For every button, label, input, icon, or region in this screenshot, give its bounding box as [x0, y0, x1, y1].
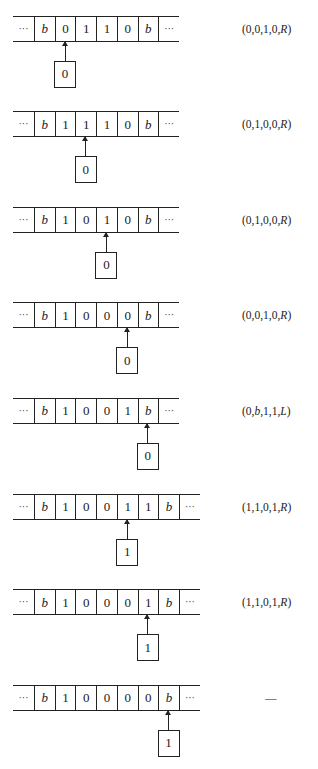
transition-label: (0, 0, 1, 0, R) — [242, 302, 291, 328]
configuration-7: ···b10001b···1(1, 1, 0, 1, R) — [0, 589, 318, 685]
tape-symbol: 0 — [83, 309, 90, 322]
tape-cell: b — [158, 686, 179, 710]
tape-symbol: b — [145, 309, 152, 322]
tape-cell: 1 — [96, 208, 117, 232]
configuration-4: ···b1000b···0(0, 0, 1, 0, R) — [0, 302, 318, 398]
tape-symbol: 0 — [124, 213, 131, 226]
tape-symbol: b — [145, 118, 152, 131]
tape-cell: 0 — [117, 303, 138, 327]
tape-cell: 1 — [55, 495, 76, 519]
tape-symbol: 0 — [104, 691, 111, 704]
tape-symbol: 1 — [62, 596, 69, 609]
transition-label: (0, 0, 1, 0, R) — [242, 16, 291, 42]
tape-cell: 1 — [55, 686, 76, 710]
tape-symbol: 1 — [145, 500, 152, 513]
tape-ellipsis-left: ··· — [13, 112, 34, 136]
transition-component: 0 — [246, 23, 252, 35]
tape-ellipsis-left: ··· — [13, 17, 34, 41]
tape-ellipsis-left: ··· — [13, 303, 34, 327]
tape-symbol: 0 — [124, 691, 131, 704]
transition-component: 0 — [263, 501, 269, 513]
transition-component: 0 — [272, 23, 278, 35]
tape-symbol: 0 — [124, 309, 131, 322]
tape-ellipsis-right: ··· — [158, 112, 179, 136]
tape-symbol: 0 — [83, 691, 90, 704]
tape-cell: 0 — [96, 686, 117, 710]
tape-cell: 1 — [138, 590, 159, 614]
tape-symbol: 1 — [62, 404, 69, 417]
state-box: 0 — [54, 61, 76, 88]
tape-symbol: 1 — [145, 596, 152, 609]
tape-cell: b — [34, 112, 55, 136]
tape-symbol: 0 — [124, 118, 131, 131]
tape-cell: 0 — [75, 590, 96, 614]
tape-symbol: 0 — [83, 404, 90, 417]
head-arrow-icon — [147, 424, 148, 443]
tape-symbol: 0 — [124, 596, 131, 609]
tape-symbol: b — [166, 691, 173, 704]
transition-component: R — [280, 23, 287, 35]
tape-ellipsis-right: ··· — [158, 303, 179, 327]
tape-symbol: 1 — [62, 309, 69, 322]
tape-symbol: b — [145, 213, 152, 226]
tape-symbol: 0 — [83, 213, 90, 226]
transition-label: (0, 1, 0, 0, R) — [242, 111, 291, 137]
state-box: 1 — [116, 539, 138, 566]
transition-component: 0 — [272, 309, 278, 321]
tape-cell: 0 — [75, 686, 96, 710]
tape-cell: b — [138, 112, 159, 136]
tape-cell: 0 — [75, 495, 96, 519]
tape-cell: 0 — [117, 17, 138, 41]
tape-cell: b — [34, 17, 55, 41]
tape-symbol: 1 — [124, 500, 131, 513]
transition-component: b — [254, 405, 260, 417]
tape-symbol: 0 — [62, 22, 69, 35]
tape-symbol: 1 — [62, 213, 69, 226]
configuration-3: ···b1010b···0(0, 1, 0, 0, R) — [0, 207, 318, 303]
transition-component: 1 — [254, 214, 260, 226]
tape-cell: b — [138, 17, 159, 41]
transition-component: 0 — [246, 214, 252, 226]
state-box: 0 — [95, 252, 117, 279]
tape-symbol: 1 — [83, 22, 90, 35]
transition-component: R — [280, 214, 287, 226]
tape-symbol: 1 — [124, 404, 131, 417]
tape-cell: 1 — [55, 112, 76, 136]
head-arrow-icon — [106, 233, 107, 252]
transition-component: 0 — [272, 118, 278, 130]
tape-ellipsis-right: ··· — [158, 399, 179, 423]
tape-cell: 0 — [96, 303, 117, 327]
tape-cell: b — [34, 590, 55, 614]
tape-ellipsis-right: ··· — [158, 208, 179, 232]
turing-machine-trace: ···b0110b···0(0, 0, 1, 0, R)···b1110b···… — [0, 0, 318, 769]
tape-cell: 1 — [55, 208, 76, 232]
transition-component: R — [280, 309, 287, 321]
tape-symbol: b — [42, 309, 49, 322]
tape: ···b1010b··· — [13, 207, 179, 233]
transition-component: 1 — [246, 596, 252, 608]
tape-cell: b — [138, 208, 159, 232]
tape: ···b10001b··· — [13, 589, 200, 615]
tape-symbol: b — [42, 500, 49, 513]
transition-component: 0 — [246, 118, 252, 130]
transition-label: — — [265, 685, 277, 711]
transition-label: (1, 1, 0, 1, R) — [242, 589, 291, 615]
tape-cell: 1 — [55, 399, 76, 423]
tape-cell: b — [138, 303, 159, 327]
tape-ellipsis-left: ··· — [13, 208, 34, 232]
configuration-8: ···b10000b···1— — [0, 685, 318, 769]
tape-ellipsis-left: ··· — [13, 590, 34, 614]
tape-cell: 1 — [55, 303, 76, 327]
state-box: 1 — [137, 634, 159, 661]
tape-cell: 0 — [96, 590, 117, 614]
transition-component: 1 — [254, 501, 260, 513]
tape-symbol: 0 — [145, 691, 152, 704]
tape-ellipsis-left: ··· — [13, 686, 34, 710]
transition-component: R — [280, 596, 287, 608]
state-box: 0 — [75, 156, 97, 183]
transition-component: 1 — [263, 23, 269, 35]
configuration-2: ···b1110b···0(0, 1, 0, 0, R) — [0, 111, 318, 207]
transition-component: 1 — [254, 596, 260, 608]
tape-symbol: 0 — [104, 596, 111, 609]
tape-symbol: 0 — [104, 500, 111, 513]
